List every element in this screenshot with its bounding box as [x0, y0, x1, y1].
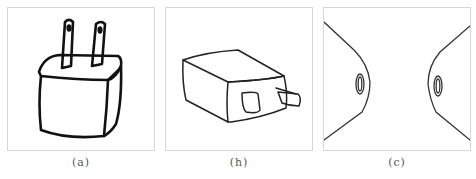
caption-b: (h) — [165, 156, 313, 169]
panel-c — [323, 7, 471, 151]
caption-a: (a) — [7, 156, 155, 169]
mirrored-shapes-outline — [324, 8, 470, 150]
panel-a — [7, 7, 155, 151]
caption-c: (c) — [323, 156, 471, 169]
lying-charger-sketch — [166, 8, 312, 150]
panel-b — [165, 7, 313, 151]
upright-plug-sketch — [8, 8, 154, 150]
